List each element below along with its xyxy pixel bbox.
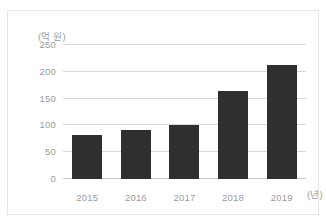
x-slot-2017: 2017 [160,187,209,205]
bar-series [63,45,306,179]
bar-slot-2016 [112,45,161,179]
y-tick-label-50: 50 [45,146,56,157]
bar-2016 [121,130,151,179]
bar-slot-2015 [63,45,112,179]
chart-card: (억 원) 050100150200250 201520162017201820… [7,10,319,215]
chart-screenshot: (억 원) 050100150200250 201520162017201820… [0,0,326,222]
y-tick-label-250: 250 [40,39,56,50]
plot-area: 050100150200250 [63,45,306,179]
x-slot-2016: 2016 [112,187,161,205]
clipped-top-caption [30,0,170,4]
x-axis-labels: 20152016201720182019 [63,187,306,205]
bar-slot-2018 [209,45,258,179]
x-slot-2018: 2018 [209,187,258,205]
x-slot-2015: 2015 [63,187,112,205]
x-slot-2019: 2019 [257,187,306,205]
x-tick-label-2016: 2016 [125,192,147,203]
y-tick-label-200: 200 [40,65,56,76]
bar-2017 [169,125,199,179]
y-tick-label-150: 150 [40,92,56,103]
bar-2015 [72,135,102,179]
x-tick-label-2019: 2019 [271,192,293,203]
bar-2018 [218,91,248,179]
bar-2019 [267,65,297,179]
x-tick-label-2015: 2015 [76,192,98,203]
bar-slot-2017 [160,45,209,179]
x-tick-label-2017: 2017 [174,192,196,203]
y-tick-label-100: 100 [40,119,56,130]
bar-slot-2019 [257,45,306,179]
y-tick-label-0: 0 [51,173,56,184]
x-axis-unit-label: (년) [307,187,323,201]
x-tick-label-2018: 2018 [222,192,244,203]
